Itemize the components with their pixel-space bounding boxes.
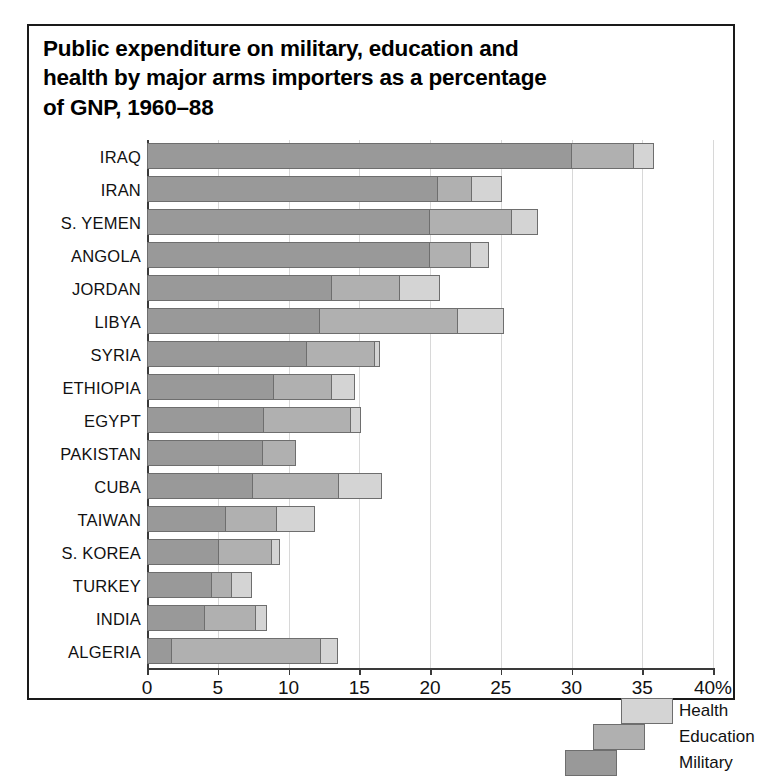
legend-swatch-education bbox=[593, 724, 645, 750]
bar-segment-health bbox=[512, 209, 537, 235]
chart-row: PAKISTAN bbox=[29, 437, 733, 470]
legend-item: Military bbox=[565, 750, 725, 776]
chart-row: INDIA bbox=[29, 602, 733, 635]
bar-segment-military bbox=[147, 473, 253, 499]
bar-segment-education bbox=[430, 242, 471, 268]
category-label: ALGERIA bbox=[68, 642, 141, 661]
x-tick-label: 20 bbox=[419, 677, 440, 699]
bar-segment-education bbox=[572, 143, 634, 169]
bar-segment-education bbox=[320, 308, 459, 334]
category-label: ETHIOPIA bbox=[62, 378, 141, 397]
legend-swatch-health bbox=[621, 698, 673, 724]
bar-segment-education bbox=[438, 176, 472, 202]
legend-item: Health bbox=[621, 698, 762, 724]
x-tick-label: 10 bbox=[278, 677, 299, 699]
bar-segment-education bbox=[307, 341, 375, 367]
category-label: ANGOLA bbox=[71, 246, 141, 265]
bar-segment-health bbox=[472, 176, 502, 202]
legend-label: Education bbox=[679, 727, 755, 747]
bar-segment-military bbox=[147, 176, 438, 202]
category-label: IRAN bbox=[101, 180, 141, 199]
x-tick bbox=[147, 668, 149, 675]
legend-label: Health bbox=[679, 701, 728, 721]
chart-row: IRAQ bbox=[29, 140, 733, 173]
bar-segment-military bbox=[147, 506, 226, 532]
category-label: SYRIA bbox=[90, 345, 141, 364]
bar-segment-military bbox=[147, 143, 572, 169]
chart-row: IRAN bbox=[29, 173, 733, 206]
bar-segment-military bbox=[147, 341, 307, 367]
bar-segment-health bbox=[400, 275, 440, 301]
legend-label: Military bbox=[679, 753, 733, 773]
bar-segment-health bbox=[332, 374, 355, 400]
x-tick bbox=[218, 668, 220, 675]
category-label: JORDAN bbox=[72, 279, 141, 298]
category-label: S. YEMEN bbox=[61, 213, 141, 232]
category-label: TURKEY bbox=[73, 576, 141, 595]
category-label: LIBYA bbox=[94, 312, 141, 331]
bars-container: IRAQIRANS. YEMENANGOLAJORDANLIBYASYRIAET… bbox=[29, 136, 733, 670]
category-label: EGYPT bbox=[84, 411, 141, 430]
bar-segment-health bbox=[272, 539, 280, 565]
chart-row: EGYPT bbox=[29, 404, 733, 437]
x-tick-label: 5 bbox=[212, 677, 223, 699]
bar-segment-military bbox=[147, 572, 212, 598]
bar-segment-health bbox=[471, 242, 489, 268]
plot-area: IRAQIRANS. YEMENANGOLAJORDANLIBYASYRIAET… bbox=[29, 136, 733, 698]
bar-segment-education bbox=[212, 572, 232, 598]
bar-segment-military bbox=[147, 209, 430, 235]
chart-row: TAIWAN bbox=[29, 503, 733, 536]
bar-segment-education bbox=[219, 539, 271, 565]
x-tick-label: 40% bbox=[694, 677, 732, 699]
x-tick-label: 35 bbox=[632, 677, 653, 699]
bar-segment-education bbox=[274, 374, 332, 400]
x-tick-label: 25 bbox=[490, 677, 511, 699]
x-tick bbox=[713, 668, 715, 675]
bar-segment-health bbox=[232, 572, 252, 598]
chart-row: SYRIA bbox=[29, 338, 733, 371]
x-tick-label: 30 bbox=[561, 677, 582, 699]
chart-row: ANGOLA bbox=[29, 239, 733, 272]
category-label: S. KOREA bbox=[61, 543, 141, 562]
category-label: INDIA bbox=[96, 609, 141, 628]
x-tick bbox=[501, 668, 503, 675]
bar-segment-education bbox=[430, 209, 512, 235]
x-tick bbox=[430, 668, 432, 675]
bar-segment-military bbox=[147, 638, 172, 664]
bar-segment-health bbox=[351, 407, 361, 433]
x-tick-label: 0 bbox=[142, 677, 153, 699]
chart-legend: HealthEducationMilitary bbox=[565, 698, 735, 780]
legend-swatch-military bbox=[565, 750, 617, 776]
x-tick-label: 15 bbox=[349, 677, 370, 699]
chart-row: CUBA bbox=[29, 470, 733, 503]
x-tick bbox=[642, 668, 644, 675]
chart-figure: Public expenditure on military, educatio… bbox=[27, 24, 735, 700]
chart-row: LIBYA bbox=[29, 305, 733, 338]
bar-segment-education bbox=[253, 473, 339, 499]
bar-segment-education bbox=[263, 440, 296, 466]
chart-row: S. KOREA bbox=[29, 536, 733, 569]
bar-segment-military bbox=[147, 407, 264, 433]
bar-segment-education bbox=[264, 407, 350, 433]
bar-segment-health bbox=[458, 308, 503, 334]
bar-segment-military bbox=[147, 308, 320, 334]
bar-segment-military bbox=[147, 374, 274, 400]
bar-segment-health bbox=[277, 506, 315, 532]
bar-segment-military bbox=[147, 440, 263, 466]
bar-segment-education bbox=[226, 506, 277, 532]
category-label: CUBA bbox=[94, 477, 141, 496]
legend-item: Education bbox=[593, 724, 753, 750]
bar-segment-health bbox=[256, 605, 267, 631]
bar-segment-health bbox=[321, 638, 338, 664]
bar-segment-education bbox=[205, 605, 256, 631]
bar-segment-military bbox=[147, 539, 219, 565]
category-label: PAKISTAN bbox=[60, 444, 141, 463]
bar-segment-health bbox=[375, 341, 381, 367]
bar-segment-military bbox=[147, 605, 205, 631]
chart-row: TURKEY bbox=[29, 569, 733, 602]
chart-row: JORDAN bbox=[29, 272, 733, 305]
bar-segment-military bbox=[147, 242, 430, 268]
category-label: IRAQ bbox=[100, 147, 141, 166]
bar-segment-health bbox=[634, 143, 654, 169]
x-tick bbox=[359, 668, 361, 675]
